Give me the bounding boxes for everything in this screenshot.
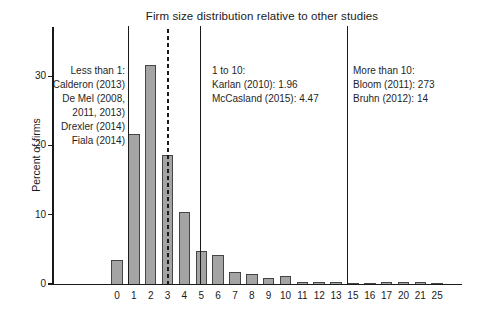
bar-9 <box>263 278 275 284</box>
chart-title: Firm size distribution relative to other… <box>44 10 480 22</box>
bar-13 <box>330 282 342 284</box>
annotation-line: McCasland (2015): 4.47 <box>212 92 319 106</box>
bar-7 <box>229 272 241 284</box>
reference-line-mean-firm-size <box>167 29 169 284</box>
bar-1 <box>128 134 140 284</box>
reference-line-sep-less-than-1 <box>128 26 129 284</box>
bar-12 <box>313 282 325 284</box>
annotation-line: Bloom (2011): 273 <box>353 78 435 92</box>
annotation-line: Drexler (2014) <box>53 120 125 134</box>
annotation-line: De Mel (2008, <box>53 92 125 106</box>
reference-line-sep-1-to-10 <box>200 26 201 284</box>
annotation-line: Calderon (2013) <box>53 78 125 92</box>
annotation-less-than-1: Less than 1:Calderon (2013)De Mel (2008,… <box>53 64 125 148</box>
bar-25 <box>431 283 443 284</box>
annotation-more-than-10: More than 10:Bloom (2011): 273Bruhn (201… <box>353 64 435 106</box>
bar-4 <box>179 212 191 284</box>
bar-21 <box>415 282 427 284</box>
bar-10 <box>280 276 292 284</box>
x-tick-label: 25 <box>427 290 447 302</box>
y-tick-label: 20 <box>18 139 46 151</box>
annotation-line: 1 to 10: <box>212 64 319 78</box>
annotation-line: Bruhn (2012): 14 <box>353 92 435 106</box>
bar-11 <box>297 282 309 284</box>
bar-5 <box>196 251 208 284</box>
bar-16 <box>364 283 376 284</box>
annotation-line: More than 10: <box>353 64 435 78</box>
bar-0 <box>111 260 123 284</box>
bar-2 <box>145 65 157 284</box>
annotation-1-to-10: 1 to 10:Karlan (2010): 1.96McCasland (20… <box>212 64 319 106</box>
y-tick-mark <box>48 214 53 215</box>
bar-8 <box>246 274 258 284</box>
bar-15 <box>347 283 359 284</box>
y-tick-label: 0 <box>18 278 46 290</box>
annotation-line: 2011, 2013) <box>53 106 125 120</box>
bar-6 <box>212 255 224 284</box>
y-tick-mark <box>48 283 53 284</box>
annotation-line: Less than 1: <box>53 64 125 78</box>
bar-17 <box>381 282 393 284</box>
firm-size-chart: Firm size distribution relative to other… <box>0 0 480 315</box>
annotation-line: Karlan (2010): 1.96 <box>212 78 319 92</box>
y-tick-label: 10 <box>18 209 46 221</box>
reference-line-sep-more-than-10 <box>347 26 348 284</box>
annotation-line: Fiala (2014) <box>53 134 125 148</box>
bar-20 <box>398 282 410 284</box>
y-tick-label: 30 <box>18 70 46 82</box>
